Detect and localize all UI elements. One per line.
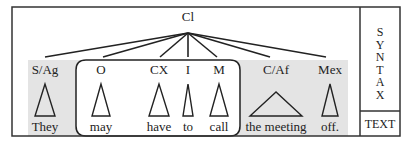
node-label: S/Ag bbox=[32, 62, 59, 77]
root-label: Cl bbox=[182, 9, 195, 24]
word-text: off. bbox=[321, 119, 339, 134]
word-text: the meeting bbox=[245, 119, 307, 134]
word-text: have bbox=[147, 119, 172, 134]
node-label: M bbox=[213, 62, 225, 77]
clause-diagram: S/AgOCXIMC/AfMex Theymayhavetocallthe me… bbox=[0, 0, 412, 148]
node-label: I bbox=[186, 62, 190, 77]
word-text: to bbox=[183, 119, 193, 134]
node-label: CX bbox=[150, 62, 169, 77]
word-text: They bbox=[32, 119, 59, 134]
word-text: call bbox=[210, 119, 229, 134]
node-label: C/Af bbox=[263, 62, 290, 77]
text-label: TEXT bbox=[365, 117, 396, 131]
tree-branches bbox=[45, 33, 326, 57]
node-label: Mex bbox=[318, 62, 342, 77]
word-text: may bbox=[90, 119, 113, 134]
syntax-label: SYNTAX bbox=[376, 25, 385, 102]
node-label: O bbox=[96, 62, 105, 77]
syntax-letter: X bbox=[376, 88, 385, 102]
